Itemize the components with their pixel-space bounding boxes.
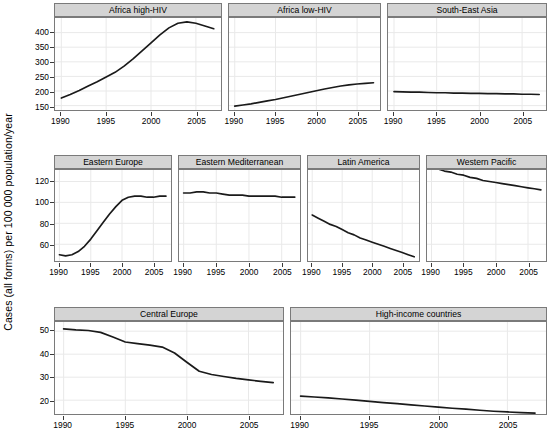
x-tick-label: 1995 xyxy=(116,420,135,430)
x-tick-label: 1990 xyxy=(302,267,321,277)
y-tick-mark xyxy=(50,224,54,225)
x-axis: 1990199520002005 xyxy=(178,263,301,279)
y-tick-label: 20 xyxy=(40,396,49,406)
y-tick-label: 400 xyxy=(35,27,49,37)
plot-area xyxy=(54,321,284,415)
x-tick-label: 2005 xyxy=(348,116,367,126)
x-tick-label: 2005 xyxy=(273,267,292,277)
plot-area xyxy=(307,169,420,262)
x-tick-label: 1995 xyxy=(360,420,379,430)
y-tick-mark xyxy=(50,92,54,93)
plot-area xyxy=(178,169,301,262)
y-tick-label: 120 xyxy=(35,176,49,186)
x-tick-label: 2000 xyxy=(470,116,489,126)
panel-strip-label: High-income countries xyxy=(290,307,547,321)
x-tick-label: 1990 xyxy=(290,420,309,430)
x-axis: 1990199520002005 xyxy=(54,416,284,432)
x-tick-label: 1990 xyxy=(173,267,192,277)
x-tick-label: 2005 xyxy=(499,420,518,430)
y-tick-mark xyxy=(50,401,54,402)
plot-area xyxy=(54,169,172,262)
x-tick-label: 2005 xyxy=(187,116,206,126)
panel-strip-label: Africa low-HIV xyxy=(228,3,381,17)
panel-strip-label: Eastern Europe xyxy=(54,155,172,169)
y-tick-mark xyxy=(50,47,54,48)
y-axis: 6080100120 xyxy=(20,169,54,262)
x-tick-label: 2000 xyxy=(487,267,506,277)
x-tick-label: 2005 xyxy=(519,267,538,277)
x-tick-label: 1995 xyxy=(454,267,473,277)
facet-panel-central-europe: Central Europe xyxy=(54,307,284,415)
y-tick-label: 60 xyxy=(40,240,49,250)
panel-strip-label: Eastern Mediterranean xyxy=(178,155,301,169)
x-tick-label: 1990 xyxy=(384,116,403,126)
facet-panel-western-pacific: Western Pacific xyxy=(426,155,547,262)
y-tick-label: 200 xyxy=(35,87,49,97)
plot-area xyxy=(228,17,381,111)
panel-strip-label: Western Pacific xyxy=(426,155,547,169)
y-tick-mark xyxy=(50,62,54,63)
plot-area xyxy=(426,169,547,262)
y-tick-mark xyxy=(50,107,54,108)
x-tick-label: 1990 xyxy=(421,267,440,277)
panel-strip-label: South-East Asia xyxy=(387,3,547,17)
x-tick-label: 2000 xyxy=(178,420,197,430)
y-tick-mark xyxy=(50,245,54,246)
y-tick-mark xyxy=(50,202,54,203)
x-tick-label: 2000 xyxy=(113,267,132,277)
x-tick-label: 1995 xyxy=(427,116,446,126)
x-tick-label: 1995 xyxy=(332,267,351,277)
facet-panel-africa-low-hiv: Africa low-HIV xyxy=(228,3,381,111)
trellis-chart: Cases (all forms) per 100 000 population… xyxy=(0,0,556,444)
y-axis: 150200250300350400 xyxy=(20,17,54,111)
y-axis-label: Cases (all forms) per 100 000 population… xyxy=(0,0,16,444)
x-tick-label: 2000 xyxy=(240,267,259,277)
facet-panel-south-east-asia: South-East Asia xyxy=(387,3,547,111)
y-tick-mark xyxy=(50,77,54,78)
x-axis: 1990199520002005 xyxy=(387,112,547,128)
y-tick-mark xyxy=(50,354,54,355)
x-axis: 1990199520002005 xyxy=(54,112,222,128)
facet-panel-latin-america: Latin America xyxy=(307,155,420,262)
facet-panel-high-income-countries: High-income countries xyxy=(290,307,547,415)
x-axis: 1990199520002005 xyxy=(54,263,172,279)
x-tick-label: 2005 xyxy=(240,420,259,430)
facet-panel-africa-high-hiv: Africa high-HIV xyxy=(54,3,222,111)
x-tick-label: 2005 xyxy=(145,267,164,277)
x-axis: 1990199520002005 xyxy=(290,416,547,432)
y-tick-mark xyxy=(50,330,54,331)
y-tick-label: 50 xyxy=(40,325,49,335)
facet-panel-eastern-mediterranean: Eastern Mediterranean xyxy=(178,155,301,262)
y-tick-label: 40 xyxy=(40,349,49,359)
y-tick-mark xyxy=(50,377,54,378)
x-tick-label: 1995 xyxy=(81,267,100,277)
x-tick-label: 1990 xyxy=(49,267,68,277)
y-tick-mark xyxy=(50,181,54,182)
y-tick-label: 300 xyxy=(35,57,49,67)
y-tick-label: 30 xyxy=(40,372,49,382)
y-tick-label: 150 xyxy=(35,102,49,112)
y-tick-mark xyxy=(50,32,54,33)
y-tick-label: 250 xyxy=(35,72,49,82)
x-tick-label: 2000 xyxy=(142,116,161,126)
x-tick-label: 1995 xyxy=(207,267,226,277)
panel-strip-label: Africa high-HIV xyxy=(54,3,222,17)
x-tick-label: 1990 xyxy=(224,116,243,126)
y-tick-label: 100 xyxy=(35,197,49,207)
plot-area xyxy=(54,17,222,111)
x-tick-label: 1995 xyxy=(96,116,115,126)
x-tick-label: 2005 xyxy=(394,267,413,277)
x-axis: 1990199520002005 xyxy=(426,263,547,279)
x-tick-label: 1990 xyxy=(51,116,70,126)
y-axis: 20304050 xyxy=(20,321,54,415)
y-tick-label: 350 xyxy=(35,42,49,52)
plot-area xyxy=(387,17,547,111)
x-axis: 1990199520002005 xyxy=(228,112,381,128)
x-axis: 1990199520002005 xyxy=(307,263,420,279)
panel-strip-label: Latin America xyxy=(307,155,420,169)
y-tick-label: 80 xyxy=(40,219,49,229)
x-tick-label: 1995 xyxy=(266,116,285,126)
x-tick-label: 1990 xyxy=(53,420,72,430)
panel-strip-label: Central Europe xyxy=(54,307,284,321)
x-tick-label: 2000 xyxy=(363,267,382,277)
